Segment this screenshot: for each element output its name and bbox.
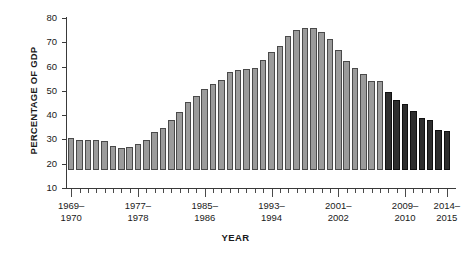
x-tick-major bbox=[405, 189, 406, 197]
x-tick-minor bbox=[438, 189, 439, 193]
x-tick-minor bbox=[80, 189, 81, 193]
bar bbox=[268, 52, 275, 170]
x-tick-label: 2014– 2015 bbox=[425, 200, 469, 223]
x-tick-minor bbox=[246, 189, 247, 193]
bar bbox=[135, 144, 142, 170]
x-tick-label: 2001– 2002 bbox=[316, 200, 360, 223]
bar bbox=[101, 141, 108, 170]
bar bbox=[335, 50, 342, 170]
y-tick-label: 10 bbox=[31, 183, 57, 193]
x-tick-minor bbox=[255, 189, 256, 193]
x-tick-minor bbox=[372, 189, 373, 193]
x-tick-minor bbox=[363, 189, 364, 193]
bar bbox=[444, 131, 451, 170]
x-tick-major bbox=[71, 189, 72, 197]
bar-chart: PERCENTAGE OF GDP 1020304050607080 1969–… bbox=[0, 0, 471, 259]
bar bbox=[68, 138, 75, 170]
x-tick-label: 1993– 1994 bbox=[250, 200, 294, 223]
x-tick-minor bbox=[380, 189, 381, 193]
bar bbox=[76, 140, 83, 170]
x-tick-minor bbox=[297, 189, 298, 193]
x-tick-label: 1977– 1978 bbox=[116, 200, 160, 223]
x-tick-minor bbox=[221, 189, 222, 193]
bar bbox=[352, 68, 359, 170]
x-tick-minor bbox=[288, 189, 289, 193]
x-tick-major bbox=[138, 189, 139, 197]
bar bbox=[185, 102, 192, 170]
x-tick-label: 2009– 2010 bbox=[383, 200, 427, 223]
bar bbox=[377, 81, 384, 170]
x-tick-minor bbox=[355, 189, 356, 193]
x-tick-minor bbox=[188, 189, 189, 193]
x-tick-major bbox=[205, 189, 206, 197]
x-tick-major bbox=[447, 189, 448, 197]
bar bbox=[118, 148, 125, 170]
bar bbox=[360, 74, 367, 170]
x-tick-minor bbox=[96, 189, 97, 193]
bar bbox=[210, 84, 217, 170]
bar bbox=[435, 130, 442, 170]
bar bbox=[176, 112, 183, 170]
x-tick-minor bbox=[430, 189, 431, 193]
x-tick-minor bbox=[230, 189, 231, 193]
y-tick-label: 40 bbox=[31, 110, 57, 120]
bar bbox=[193, 96, 200, 170]
x-tick-minor bbox=[330, 189, 331, 193]
x-tick-minor bbox=[322, 189, 323, 193]
bar bbox=[293, 30, 300, 170]
bar bbox=[218, 80, 225, 170]
bar bbox=[368, 81, 375, 170]
bar bbox=[419, 118, 426, 170]
x-tick-minor bbox=[196, 189, 197, 193]
x-tick-minor bbox=[422, 189, 423, 193]
bar-series bbox=[67, 0, 451, 170]
bar bbox=[260, 60, 267, 171]
x-tick-minor bbox=[397, 189, 398, 193]
x-tick-minor bbox=[105, 189, 106, 193]
bar bbox=[227, 72, 234, 170]
x-tick-minor bbox=[313, 189, 314, 193]
bar bbox=[110, 146, 117, 170]
y-tick bbox=[62, 188, 67, 189]
x-tick-minor bbox=[171, 189, 172, 193]
x-tick-minor bbox=[347, 189, 348, 193]
x-tick-major bbox=[338, 189, 339, 197]
bar bbox=[201, 89, 208, 170]
y-tick-label: 80 bbox=[31, 13, 57, 23]
bar bbox=[427, 120, 434, 170]
x-tick-minor bbox=[121, 189, 122, 193]
bar bbox=[143, 140, 150, 170]
y-tick-label: 70 bbox=[31, 37, 57, 47]
bar bbox=[343, 61, 350, 170]
x-tick-minor bbox=[305, 189, 306, 193]
x-tick-minor bbox=[180, 189, 181, 193]
y-tick-label: 20 bbox=[31, 159, 57, 169]
x-tick-minor bbox=[238, 189, 239, 193]
bar bbox=[310, 28, 317, 170]
x-tick-label: 1969– 1970 bbox=[49, 200, 93, 223]
x-tick-minor bbox=[113, 189, 114, 193]
bar bbox=[277, 46, 284, 170]
x-tick-minor bbox=[163, 189, 164, 193]
bar bbox=[385, 92, 392, 170]
bar bbox=[160, 128, 167, 171]
x-tick-minor bbox=[213, 189, 214, 193]
bar bbox=[252, 68, 259, 170]
x-tick-label: 1985– 1986 bbox=[183, 200, 227, 223]
x-tick-minor bbox=[280, 189, 281, 193]
bar bbox=[151, 132, 158, 170]
x-tick-minor bbox=[155, 189, 156, 193]
x-tick-minor bbox=[146, 189, 147, 193]
bar bbox=[393, 100, 400, 170]
x-axis-title: YEAR bbox=[0, 232, 471, 243]
x-tick-minor bbox=[388, 189, 389, 193]
y-tick-label: 30 bbox=[31, 134, 57, 144]
bar bbox=[85, 140, 92, 170]
x-tick-minor bbox=[263, 189, 264, 193]
bar bbox=[93, 140, 100, 170]
bar bbox=[126, 147, 133, 170]
bar bbox=[318, 32, 325, 170]
bar bbox=[327, 39, 334, 170]
x-tick-minor bbox=[413, 189, 414, 193]
bar bbox=[410, 111, 417, 171]
